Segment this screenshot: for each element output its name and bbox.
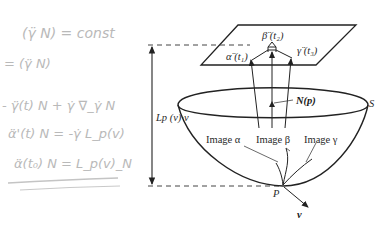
- vector-label: v: [297, 209, 302, 220]
- point-label: P: [272, 188, 280, 199]
- image-beta-label: Image β: [256, 134, 290, 145]
- alpha-label: α̈ (t₁): [226, 51, 248, 63]
- beta-label: β̈ (t₂): [261, 30, 284, 42]
- tangent-vector-arrow: [284, 187, 308, 207]
- surface-rim: [178, 88, 368, 118]
- handwritten-notes: (γ̈ N) = const = (γ̈ N) - γ̈(t) N + γ̇ ∇…: [2, 25, 132, 190]
- normal-marker: [269, 101, 275, 107]
- curve-alpha: [276, 163, 283, 185]
- note-5: α̈(t₀) N = L_p(v)_N: [14, 156, 132, 171]
- image-alpha-label: Image α: [206, 134, 241, 145]
- diagram-canvas: (γ̈ N) = const = (γ̈ N) - γ̈(t) N + γ̇ ∇…: [0, 0, 385, 227]
- note-4: α̈'(t) N = -γ̇ L_p(v): [8, 126, 125, 141]
- note-1: (γ̈ N) = const: [22, 25, 115, 41]
- surface-label: S: [369, 98, 375, 109]
- beta-arrowhead: [268, 42, 276, 47]
- image-alpha-leader: [244, 146, 278, 162]
- underline-1: [8, 178, 118, 183]
- underline-2: [20, 186, 120, 190]
- image-gamma-label: Image γ: [304, 134, 338, 145]
- normal-leader: [274, 100, 293, 103]
- note-3: - γ̈(t) N + γ̇ ∇_γ̇ N: [2, 98, 116, 113]
- gamma-label: γ̈ (t₃): [297, 45, 318, 57]
- note-2: = (γ̈ N): [4, 56, 51, 71]
- normal-label: N(p): [295, 95, 316, 107]
- curve-beta: [283, 148, 288, 185]
